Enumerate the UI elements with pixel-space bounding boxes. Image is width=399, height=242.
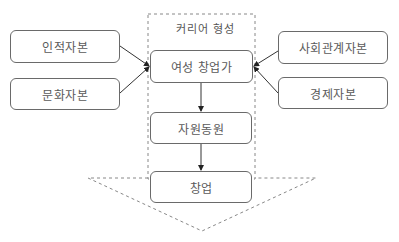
node-social-capital: 사회관계자본 — [278, 31, 388, 64]
node-female-entrepreneur: 여성 창업가 — [150, 50, 253, 83]
edge-cultural-capital — [120, 67, 149, 93]
edge-economic-capital — [254, 67, 278, 93]
node-startup: 창업 — [150, 171, 252, 203]
node-cultural-capital: 문화자본 — [10, 78, 120, 110]
edge-social-capital — [254, 51, 278, 66]
node-economic-capital: 경제자본 — [278, 77, 388, 109]
node-resource-mobilization: 자원동원 — [150, 112, 252, 144]
edge-human-capital — [120, 46, 149, 66]
container-title: 커리어 형성 — [176, 20, 236, 36]
node-human-capital: 인적자본 — [10, 30, 120, 63]
